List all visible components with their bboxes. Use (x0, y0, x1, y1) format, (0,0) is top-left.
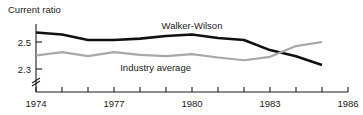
x-axis-tick-labels: 19741977198019831986 (25, 98, 358, 109)
x-tick-label: 1977 (103, 98, 124, 109)
data-series-group (36, 33, 322, 65)
y-tick-label: 2.5 (18, 37, 31, 48)
x-tick-label: 1983 (259, 98, 280, 109)
series-label-walker-wilson: Walker-Wilson (162, 20, 223, 31)
x-tick-label: 1980 (181, 98, 202, 109)
y-axis-tick-labels: 2.52.3 (18, 37, 31, 75)
chart-canvas: 2.52.3 19741977198019831986 Current rati… (0, 0, 363, 115)
current-ratio-line-chart: 2.52.3 19741977198019831986 Current rati… (0, 0, 363, 115)
series-annotation-labels: Walker-WilsonIndustry average (120, 20, 222, 74)
x-tick-label: 1974 (25, 98, 46, 109)
series-label-industry-average: Industry average (120, 62, 191, 73)
x-axis-ticks (36, 87, 348, 92)
series-line-walker-wilson (36, 33, 322, 65)
y-tick-label: 2.3 (18, 64, 31, 75)
x-tick-label: 1986 (337, 98, 358, 109)
y-axis-title: Current ratio (8, 4, 61, 15)
